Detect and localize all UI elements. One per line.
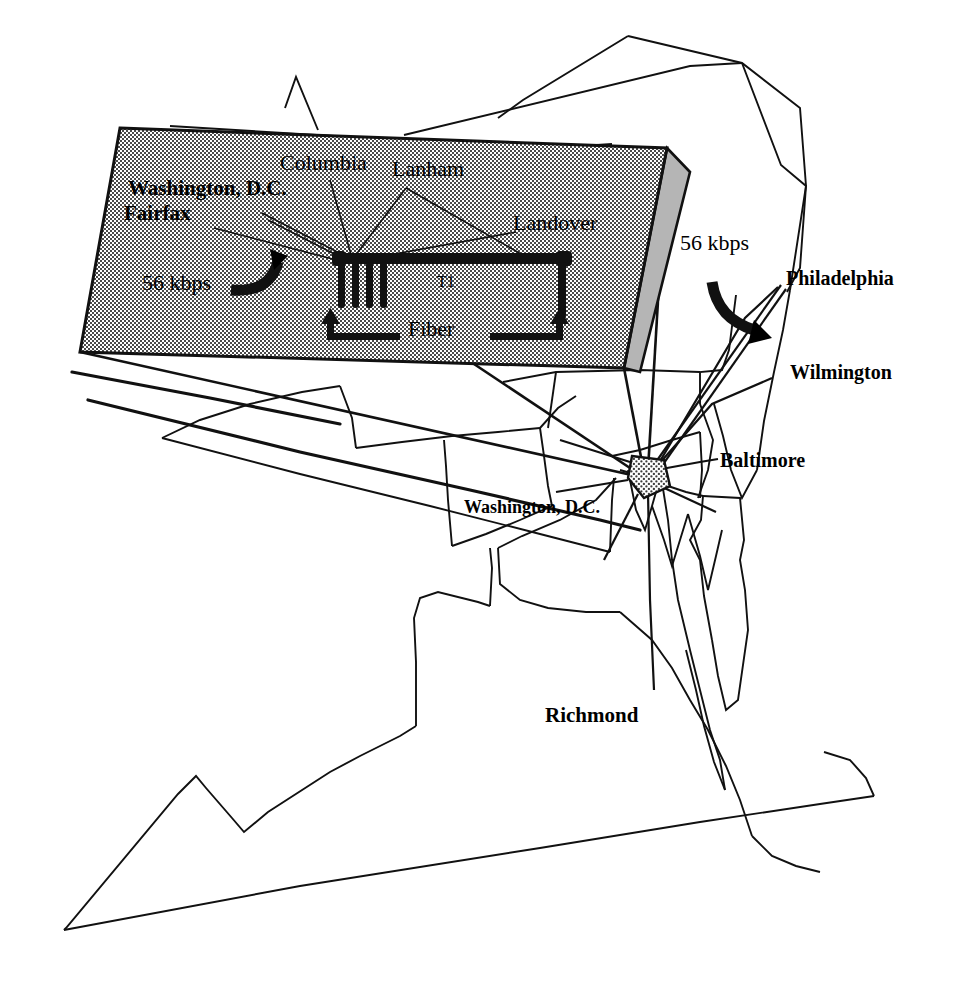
inset-label-washington-dc: Washington, D.C.	[128, 178, 287, 199]
inset-label-landover: Landover	[513, 212, 597, 234]
inset-label-lanham: Lanham	[392, 158, 464, 180]
inset-label-fairfax: Fairfax	[124, 203, 190, 224]
network-map-figure: Columbia Lanham Washington, D.C. Fairfax…	[0, 0, 962, 1003]
inset-front-face	[80, 128, 667, 368]
arrow-56kbps-map	[712, 282, 772, 344]
inset-label-columbia: Columbia	[280, 152, 367, 174]
inset-label-56kbps: 56 kbps	[142, 272, 211, 294]
inset-label-fiber: Fiber	[408, 318, 454, 340]
map-label-philadelphia: Philadelphia	[786, 268, 894, 288]
map-label-richmond: Richmond	[545, 705, 638, 726]
map-label-washington-dc: Washington, D.C.	[464, 498, 600, 516]
map-label-baltimore: Baltimore	[720, 450, 805, 470]
map-label-56kbps: 56 kbps	[680, 232, 749, 254]
inset-label-t1: T1	[437, 274, 455, 290]
map-label-wilmington: Wilmington	[790, 362, 892, 382]
